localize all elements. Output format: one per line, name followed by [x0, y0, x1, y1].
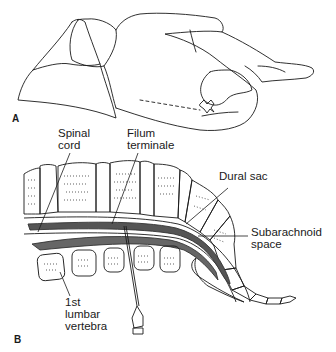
vertebra: [178, 170, 192, 222]
vertebra: [185, 180, 218, 232]
label-spinal-cord: Spinal cord: [58, 127, 90, 151]
lumbar-vertebra-2: [72, 250, 96, 276]
vertebra: [154, 164, 180, 218]
leader-lumbar: [60, 272, 70, 296]
label-filum-terminale: Filum terminale: [127, 127, 174, 151]
lumbar-vertebra-4: [134, 246, 154, 270]
label-first-lumbar-vertebra: 1st lumbar vertebra: [65, 296, 107, 332]
vertebra: [140, 161, 154, 216]
vertebra: [24, 168, 40, 214]
lumbar-vertebra-1: [37, 253, 66, 282]
vertebra: [58, 163, 96, 212]
label-dural-sac: Dural sac: [219, 170, 268, 182]
leader-dural-sac: [186, 188, 228, 224]
lumbar-vertebra-5: [160, 246, 180, 272]
label-subarachnoid-space: Subarachnoid space: [251, 226, 322, 250]
vertebra: [110, 161, 140, 214]
panel-b-label: B: [14, 334, 21, 345]
needle-hub: [132, 306, 143, 328]
lumbar-vertebra-3: [104, 248, 124, 272]
vertebra: [96, 163, 110, 213]
panel-b-illustration: [0, 0, 336, 352]
